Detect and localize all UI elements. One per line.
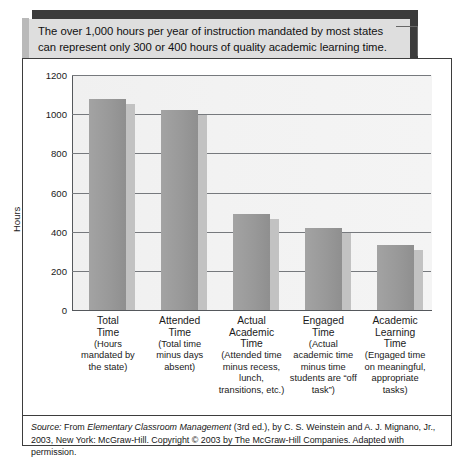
source-prefix: From <box>62 422 88 432</box>
category-description: (Attended time minus recess, lunch, tran… <box>218 350 286 396</box>
bar <box>161 110 198 310</box>
source-citation: Source: From Elementary Classroom Manage… <box>31 421 443 459</box>
callout-leader-line-horizontal <box>396 26 418 27</box>
y-axis-tick-label: 1200 <box>46 70 67 81</box>
bar <box>305 228 342 310</box>
gridline <box>72 75 431 76</box>
y-axis-tick-label: 0 <box>62 305 67 316</box>
category-name: EngagedTime <box>289 315 357 338</box>
x-axis-category-label: ActualAcademicTime(Attended time minus r… <box>218 315 286 397</box>
callout-box: The over 1,000 hours per year of instruc… <box>22 10 418 58</box>
callout-body: The over 1,000 hours per year of instruc… <box>29 19 410 58</box>
source-label: Source: <box>31 422 62 432</box>
source-divider <box>23 415 451 416</box>
category-description: (Actual academic time minus time student… <box>289 339 357 397</box>
plot-area-container: 020040060080010001200 <box>72 75 431 310</box>
bar <box>377 245 414 310</box>
category-description: (Engaged time on meaningful, appropriate… <box>361 350 429 396</box>
y-axis-tick-label: 600 <box>51 187 67 198</box>
category-name: TotalTime <box>74 315 142 338</box>
callout-leader-line-vertical <box>417 26 418 56</box>
category-name: ActualAcademicTime <box>218 315 286 350</box>
category-description: (Total time minus days absent) <box>146 339 214 374</box>
x-axis-category-labels: TotalTime(Hours mandated by the state)At… <box>72 315 431 413</box>
category-name: AcademicLearningTime <box>361 315 429 350</box>
category-description: (Hours mandated by the state) <box>74 339 142 374</box>
figure-frame: Hours 020040060080010001200 TotalTime(Ho… <box>22 58 452 446</box>
y-axis-tick-label: 200 <box>51 265 67 276</box>
bar <box>233 214 270 310</box>
callout-text: The over 1,000 hours per year of instruc… <box>38 24 400 55</box>
x-axis-category-label: EngagedTime(Actual academic time minus t… <box>289 315 357 397</box>
callout-left-accent-bar <box>22 18 29 58</box>
x-axis-category-label: AttendedTime(Total time minus days absen… <box>146 315 214 373</box>
bar <box>89 99 126 311</box>
x-axis-category-label: TotalTime(Hours mandated by the state) <box>74 315 142 373</box>
bar-chart: Hours 020040060080010001200 TotalTime(Ho… <box>23 59 451 415</box>
y-axis-tick-label: 400 <box>51 226 67 237</box>
source-title: Elementary Classroom Management <box>87 422 231 432</box>
x-axis-category-label: AcademicLearningTime(Engaged time on mea… <box>361 315 429 397</box>
y-axis-tick-label: 800 <box>51 148 67 159</box>
category-name: AttendedTime <box>146 315 214 338</box>
y-axis-tick-label: 1000 <box>46 109 67 120</box>
